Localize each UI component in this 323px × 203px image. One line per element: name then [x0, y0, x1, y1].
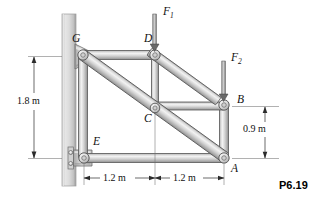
joint-pin-E — [79, 153, 89, 163]
dimension-height-1-8m — [28, 57, 62, 159]
joint-pin-D — [150, 50, 160, 60]
joint-pin-G — [78, 50, 88, 60]
joint-pin-B — [219, 100, 229, 110]
truss-diagram-canvas — [0, 0, 323, 203]
joint-label-B: B — [237, 94, 244, 106]
member-E-A — [84, 154, 224, 163]
dimension-label-0-9m: 0.9 m — [243, 124, 266, 134]
force-label-F2: F2 — [231, 52, 242, 66]
dimension-label-1-2m-left: 1.2 m — [103, 173, 126, 183]
force-label-F1-symbol: F — [163, 5, 170, 17]
joint-label-E: E — [93, 136, 100, 148]
member-G-E — [79, 55, 88, 158]
joint-label-C: C — [144, 113, 152, 125]
joint-label-D: D — [144, 33, 152, 45]
figure-p6-19: G D C B A E F1 F2 1.8 m 0.9 m 1.2 m 1.2 … — [0, 0, 323, 203]
joint-label-G: G — [72, 33, 80, 45]
force-label-F2-subscript: 2 — [238, 57, 242, 66]
joint-pin-A — [219, 153, 229, 163]
force-label-F1-subscript: 1 — [170, 11, 174, 20]
force-label-F2-symbol: F — [231, 51, 238, 63]
force-label-F1: F1 — [163, 6, 174, 20]
dimension-label-1-8m: 1.8 m — [17, 96, 40, 106]
force-arrow-F2 — [219, 61, 228, 102]
joint-label-A: A — [231, 163, 238, 175]
dimension-label-1-2m-right: 1.2 m — [173, 173, 196, 183]
figure-id-label: P6.19 — [279, 179, 308, 191]
